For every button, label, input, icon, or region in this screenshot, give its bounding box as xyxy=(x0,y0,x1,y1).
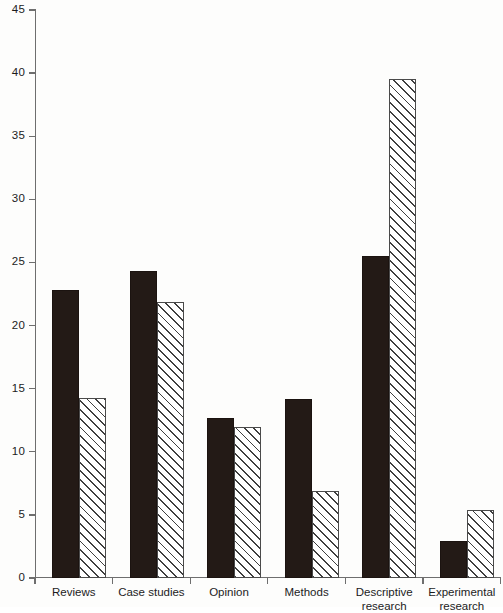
x-tick-2 xyxy=(190,577,191,584)
y-tick-label-20: 20 xyxy=(0,319,25,331)
y-tick-label-40: 40 xyxy=(0,66,25,78)
y-tick-5 xyxy=(29,514,36,515)
x-tick-1 xyxy=(112,577,113,584)
y-tick-label-30: 30 xyxy=(0,192,25,204)
bar-series-solid-2 xyxy=(207,418,234,578)
y-tick-30 xyxy=(29,199,36,200)
x-tick-0 xyxy=(34,577,35,584)
y-tick-label-15: 15 xyxy=(0,382,25,394)
x-category-label-0: Reviews xyxy=(35,586,113,600)
y-tick-label-10: 10 xyxy=(0,445,25,457)
bar-series-solid-5 xyxy=(440,541,467,578)
x-tick-5 xyxy=(422,577,423,584)
bar-series-solid-3 xyxy=(285,399,312,578)
y-tick-40 xyxy=(29,72,36,73)
y-tick-label-0: 0 xyxy=(0,571,25,583)
y-tick-label-5: 5 xyxy=(0,508,25,520)
y-tick-label-45: 45 xyxy=(0,3,25,15)
y-tick-45 xyxy=(29,9,36,10)
bar-series-hatched-1 xyxy=(157,302,184,578)
y-axis-line xyxy=(35,10,36,578)
x-category-label-1: Case studies xyxy=(113,586,191,600)
x-category-label-4: Descriptive research xyxy=(345,586,423,613)
bar-series-hatched-5 xyxy=(467,510,494,578)
bar-series-hatched-2 xyxy=(234,427,261,578)
bar-series-solid-0 xyxy=(52,290,79,578)
y-tick-35 xyxy=(29,136,36,137)
x-category-label-5: Experimental research xyxy=(423,586,501,613)
y-tick-15 xyxy=(29,388,36,389)
x-tick-3 xyxy=(267,577,268,584)
bar-series-hatched-4 xyxy=(389,79,416,578)
y-tick-label-25: 25 xyxy=(0,255,25,267)
x-tick-4 xyxy=(345,577,346,584)
bar-series-solid-1 xyxy=(130,271,157,578)
x-category-label-3: Methods xyxy=(268,586,346,600)
y-tick-25 xyxy=(29,262,36,263)
y-tick-10 xyxy=(29,451,36,452)
x-category-label-2: Opinion xyxy=(190,586,268,600)
bar-series-solid-4 xyxy=(362,256,389,578)
y-tick-20 xyxy=(29,325,36,326)
x-tick-6 xyxy=(500,577,501,584)
bar-series-hatched-3 xyxy=(312,491,339,578)
y-tick-label-35: 35 xyxy=(0,129,25,141)
bar-series-hatched-0 xyxy=(79,398,106,578)
